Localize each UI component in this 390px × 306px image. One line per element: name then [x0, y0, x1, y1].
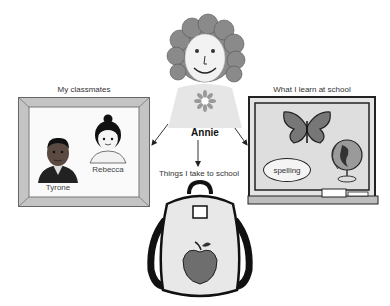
learn-node: spelling: [248, 96, 378, 206]
backpack-icon: [145, 180, 255, 304]
girl-portrait-icon: [150, 10, 260, 130]
classmates-node: Tyrone Rebecca: [18, 97, 150, 207]
center-node: Annie: [150, 10, 260, 145]
butterfly-icon: [282, 109, 332, 147]
boy-portrait-icon: [36, 133, 80, 183]
globe-icon: [330, 137, 364, 185]
girl-portrait-icon: [86, 113, 130, 163]
spelling-label: spelling: [273, 166, 300, 175]
center-name-label: Annie: [150, 127, 260, 138]
caption-learn: What I learn at school: [246, 85, 378, 94]
person-name-tyrone: Tyrone: [30, 183, 86, 192]
caption-take: Things I take to school: [140, 169, 258, 178]
caption-classmates: My classmates: [18, 85, 150, 94]
spelling-bubble: spelling: [263, 158, 311, 182]
person-name-rebecca: Rebecca: [82, 165, 134, 174]
